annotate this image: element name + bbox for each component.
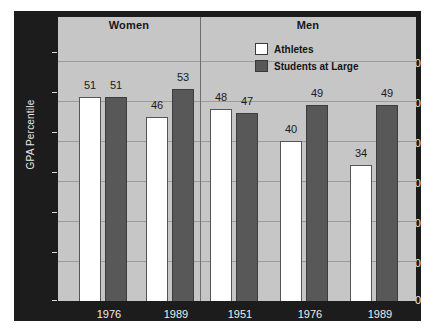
bar-value-women-1989-students: 53 (169, 71, 197, 83)
bar-chart: 60 50 40 30 20 10 0 GPA Percentile Women… (14, 11, 421, 321)
x-tick-label-men-1989: 1989 (360, 308, 400, 320)
bar-men-1976-athletes (280, 141, 302, 301)
panel-divider (200, 17, 201, 301)
y-tick-mark-10 (52, 252, 57, 253)
panel-title-women: Women (58, 19, 200, 31)
x-tick-label-women-1989: 1989 (156, 308, 196, 320)
bar-value-women-1989-athletes: 46 (143, 99, 171, 111)
bar-men-1951-students (236, 113, 258, 301)
legend-label-students: Students at Large (274, 61, 358, 72)
y-tick-mark-30 (52, 172, 57, 173)
gridline-60 (58, 61, 416, 62)
bar-value-men-1976-students: 49 (303, 87, 331, 99)
legend-swatch-students-icon (255, 60, 268, 72)
y-tick-mark-50 (52, 92, 57, 93)
legend-item-athletes: Athletes (255, 42, 358, 56)
bar-women-1976-students (105, 97, 127, 301)
bar-value-men-1951-athletes: 48 (207, 91, 235, 103)
bar-men-1976-students (306, 105, 328, 301)
bar-women-1976-athletes (79, 97, 101, 301)
legend: Athletes Students at Large (255, 42, 358, 76)
y-tick-mark-20 (52, 212, 57, 213)
panel-title-men: Men (200, 19, 416, 31)
bar-men-1951-athletes (210, 109, 232, 301)
x-tick-label-men-1951: 1951 (220, 308, 260, 320)
legend-label-athletes: Athletes (274, 44, 313, 55)
legend-swatch-athletes-icon (255, 43, 268, 55)
legend-item-students: Students at Large (255, 59, 358, 73)
plot-area: Women Men Athletes Students at Large 51 … (58, 17, 416, 301)
bar-value-men-1989-athletes: 34 (347, 147, 375, 159)
bar-women-1989-athletes (146, 117, 168, 301)
bar-men-1989-athletes (350, 165, 372, 301)
bar-value-men-1989-students: 49 (373, 87, 401, 99)
y-tick-mark-0 (52, 300, 57, 301)
bar-women-1989-students (172, 89, 194, 301)
bar-value-women-1976-athletes: 51 (76, 79, 104, 91)
x-tick-label-men-1976: 1976 (290, 308, 330, 320)
y-axis-title: GPA Percentile (25, 85, 36, 185)
bar-value-men-1976-athletes: 40 (277, 123, 305, 135)
bar-value-women-1976-students: 51 (102, 79, 130, 91)
x-tick-label-women-1976: 1976 (89, 308, 129, 320)
y-tick-mark-40 (52, 132, 57, 133)
bar-value-men-1951-students: 47 (233, 95, 261, 107)
bar-men-1989-students (376, 105, 398, 301)
y-tick-mark-60 (52, 52, 57, 53)
